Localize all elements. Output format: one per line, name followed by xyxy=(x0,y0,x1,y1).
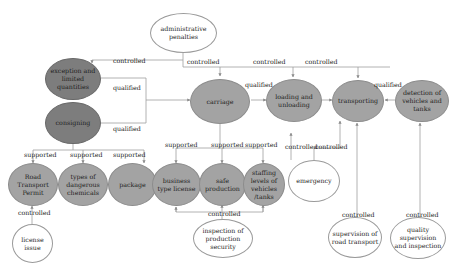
node-administrative-penalties: administrative penalties xyxy=(150,13,217,53)
node-quality-supervision-inspection: quality supervision and inspection xyxy=(390,217,446,259)
edge-label-controlled: controlled xyxy=(253,58,286,66)
node-carriage: carriage xyxy=(190,79,250,124)
node-inspection-production-security: inspection of production security xyxy=(193,219,253,258)
node-supervision-road-transport: supervision of road transport xyxy=(328,217,382,258)
node-license-issue: license issue xyxy=(12,224,53,263)
node-staffing-levels: staffing levels of vehicles /tanks xyxy=(243,163,285,206)
node-road-transport-permit: Road Transport Permit xyxy=(8,163,58,206)
node-safe-production: safe production xyxy=(199,163,246,206)
edge-label-controlled: controlled xyxy=(406,211,439,219)
edge-label-controlled: controlled xyxy=(113,57,146,65)
edge-label-controlled: controlled xyxy=(342,211,375,219)
edge-label-qualified: qualified xyxy=(374,81,402,89)
edge-label-supported: supported xyxy=(113,151,145,159)
edge-label-controlled: controlled xyxy=(305,58,338,66)
node-emergency: emergency xyxy=(288,160,340,202)
node-types-dangerous-chemicals: types of dangerous chemicals xyxy=(58,163,108,206)
edge-label-controlled: controlled xyxy=(208,210,241,218)
edge-label-controlled: controlled xyxy=(315,143,348,151)
edge-label-controlled: controlled xyxy=(285,143,318,151)
node-consigning: consigning xyxy=(45,102,101,144)
node-loading-unloading: loading and unloading xyxy=(266,79,322,122)
node-business-type-license: business type license xyxy=(152,163,201,206)
concept-diagram: administrative penalties exception and l… xyxy=(0,0,458,269)
edge-label-controlled: controlled xyxy=(187,58,220,66)
edge-label-supported: supported xyxy=(211,141,243,149)
edge-label-supported: supported xyxy=(24,151,56,159)
node-package: package xyxy=(108,163,157,206)
edge-label-controlled: controlled xyxy=(18,209,51,217)
node-exception-limited-quantities: exception and limited quantities xyxy=(45,58,101,100)
edge-label-supported: supported xyxy=(70,151,102,159)
edge-label-supported: supported xyxy=(245,141,277,149)
node-detection-vehicles-tanks: detection of vehicles and tanks xyxy=(395,80,449,122)
edge-label-qualified: qualified xyxy=(113,125,141,133)
edge-label-supported: supported xyxy=(165,141,197,149)
edge-label-qualified: qualified xyxy=(245,81,273,89)
edge-label-qualified: qualified xyxy=(113,84,141,92)
